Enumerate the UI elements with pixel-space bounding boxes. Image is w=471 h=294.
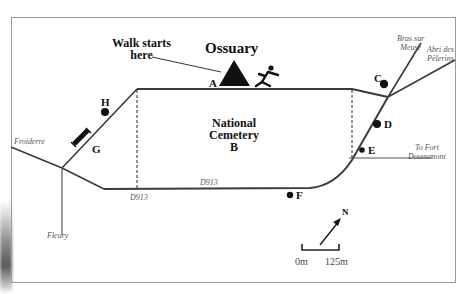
walking-person-icon	[256, 65, 278, 86]
point-a-label: A	[209, 77, 217, 89]
road-abri-des-pelerins	[388, 60, 455, 97]
north-label: N	[342, 207, 349, 217]
point-e-label: E	[368, 144, 375, 156]
road-froiderre	[11, 147, 104, 189]
douaumont-line-1: To Fort	[408, 143, 446, 152]
point-e-marker	[359, 147, 365, 153]
point-h-label: H	[101, 96, 110, 108]
scale-start-label: 0m	[295, 256, 308, 267]
point-f-marker	[287, 192, 293, 198]
abri-line-1: Abri des	[427, 45, 454, 54]
road-left-diagonal	[62, 89, 137, 168]
point-d-label: D	[384, 118, 392, 130]
point-f-label: F	[296, 189, 303, 201]
cemetery-label: National Cemetery B	[209, 117, 259, 153]
walk-start-line-2: here	[112, 49, 171, 61]
point-h-marker	[101, 108, 109, 116]
walk-start-label: Walk starts here	[112, 37, 171, 61]
place-bras-sur-meuse: Bras sur Meuse	[397, 34, 424, 52]
road-top	[137, 89, 388, 97]
place-froiderre: Froiderre	[14, 137, 45, 146]
douaumont-line-2: Douaumont	[408, 152, 446, 161]
point-d-marker	[373, 120, 381, 128]
road-label-d913-bottom: D913	[130, 193, 148, 202]
north-arrow-head	[333, 218, 341, 226]
north-arrow-icon	[320, 221, 339, 245]
ossuary-title: Ossuary	[205, 40, 258, 57]
road-label-d913-top: D913	[200, 178, 218, 187]
place-fleury: Fleury	[47, 231, 68, 240]
scale-end-label: 125m	[325, 256, 348, 267]
bras-line-1: Bras sur	[397, 34, 424, 43]
place-abri-des-pelerins: Abri des Pèlerins	[427, 45, 454, 63]
ossuary-icon	[219, 60, 250, 86]
point-c-label: C	[374, 72, 382, 84]
point-g-label: G	[92, 143, 101, 155]
abri-line-2: Pèlerins	[427, 54, 454, 63]
barrier-icon	[71, 128, 91, 147]
cemetery-line-3: B	[209, 141, 259, 153]
bras-line-2: Meuse	[397, 43, 424, 52]
place-fort-douaumont: To Fort Douaumont	[408, 143, 446, 161]
